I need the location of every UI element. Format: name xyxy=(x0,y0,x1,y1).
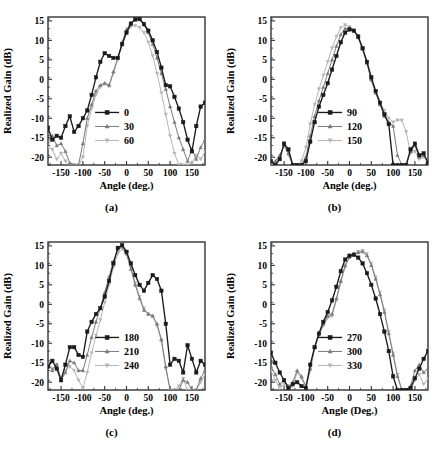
data-point-marker xyxy=(112,262,115,265)
data-point-marker xyxy=(322,93,325,96)
x-tick-label: 0 xyxy=(347,393,352,403)
x-tick-label: -100 xyxy=(297,393,315,403)
x-tick-label: -50 xyxy=(98,393,111,403)
data-point-marker xyxy=(72,130,75,133)
data-point-marker xyxy=(404,388,407,391)
x-tick-label: -100 xyxy=(297,168,315,178)
chart-panel-b: -20-15-10-5051015-150-100-50050100150Ang… xyxy=(223,0,446,225)
data-point-marker xyxy=(199,359,202,362)
legend-label-210: 210 xyxy=(124,346,139,357)
y-tick-label: -20 xyxy=(31,378,44,388)
data-point-marker xyxy=(151,39,154,42)
legend: 03060 xyxy=(95,107,134,146)
data-point-marker xyxy=(309,363,312,366)
data-point-marker xyxy=(278,371,281,374)
x-tick-label: 100 xyxy=(386,393,401,403)
x-tick-label: -150 xyxy=(52,393,70,403)
x-axis-title: Angle (deg.) xyxy=(99,180,154,192)
data-point-marker xyxy=(105,335,109,339)
x-tick-label: -100 xyxy=(74,393,92,403)
x-tick-label: 0 xyxy=(124,168,129,178)
x-axis-title: Angle (deg.) xyxy=(322,180,377,192)
data-point-marker xyxy=(291,163,294,166)
data-point-marker xyxy=(357,256,360,259)
data-point-marker xyxy=(134,18,137,21)
y-axis-title: Realized Gain (dB) xyxy=(225,48,237,134)
chart-panel-d: -20-15-10-5051015-150-100-50050100150Ang… xyxy=(223,225,446,450)
y-tick-label: 5 xyxy=(262,280,267,290)
legend-label-60: 60 xyxy=(124,135,134,146)
y-tick-label: 10 xyxy=(35,261,45,271)
panel-caption-c: (c) xyxy=(0,426,223,438)
figure-radiation-patterns: -20-15-10-5051015-150-100-50050100150Ang… xyxy=(0,0,446,450)
y-tick-label: 5 xyxy=(262,55,267,65)
data-point-marker xyxy=(86,330,89,333)
y-axis-title: Realized Gain (dB) xyxy=(225,273,237,359)
data-point-marker xyxy=(383,330,386,333)
data-point-marker xyxy=(59,379,62,382)
data-point-marker xyxy=(51,359,54,362)
legend-label-30: 30 xyxy=(124,121,134,132)
data-point-marker xyxy=(160,289,163,292)
y-tick-label: -20 xyxy=(31,153,44,163)
data-point-marker xyxy=(116,56,119,59)
data-point-marker xyxy=(422,152,425,155)
legend: 90120150 xyxy=(318,107,362,146)
data-point-marker xyxy=(343,258,346,261)
legend-label-330: 330 xyxy=(347,360,362,371)
data-point-marker xyxy=(391,163,394,166)
legend-label-240: 240 xyxy=(124,360,139,371)
data-point-marker xyxy=(173,357,176,360)
y-axis-title: Realized Gain (dB) xyxy=(2,273,14,359)
data-point-marker xyxy=(352,29,355,32)
data-point-marker xyxy=(160,66,163,69)
y-tick-label: 10 xyxy=(258,261,268,271)
y-tick-label: -20 xyxy=(254,378,267,388)
y-tick-label: -15 xyxy=(31,133,44,143)
data-point-marker xyxy=(348,254,351,257)
y-tick-label: -5 xyxy=(259,94,267,104)
data-point-marker xyxy=(90,93,93,96)
data-point-marker xyxy=(186,138,189,141)
data-point-marker xyxy=(348,28,351,31)
data-point-marker xyxy=(418,367,421,370)
chart-svg-c: -20-15-10-5051015-150-100-50050100150Ang… xyxy=(0,225,223,450)
data-point-marker xyxy=(203,101,206,104)
data-point-marker xyxy=(64,363,67,366)
y-tick-label: 5 xyxy=(39,280,44,290)
data-point-marker xyxy=(300,163,303,166)
y-tick-label: 15 xyxy=(35,16,45,26)
data-point-marker xyxy=(304,386,307,389)
data-point-marker xyxy=(94,312,97,315)
legend-label-90: 90 xyxy=(347,107,357,118)
data-point-marker xyxy=(304,159,307,162)
data-point-marker xyxy=(400,163,403,166)
data-point-marker xyxy=(68,345,71,348)
data-point-marker xyxy=(317,105,320,108)
data-point-marker xyxy=(155,50,158,53)
legend: 270300330 xyxy=(318,332,362,371)
x-tick-label: 0 xyxy=(347,168,352,178)
data-point-marker xyxy=(147,29,150,32)
data-point-marker xyxy=(125,31,128,34)
data-point-marker xyxy=(387,349,390,352)
y-tick-label: -10 xyxy=(254,114,267,124)
data-point-marker xyxy=(365,60,368,63)
data-point-marker xyxy=(77,124,80,127)
data-point-marker xyxy=(155,277,158,280)
y-tick-label: 5 xyxy=(39,55,44,65)
data-point-marker xyxy=(55,134,58,137)
data-point-marker xyxy=(86,109,89,112)
data-point-marker xyxy=(68,115,71,118)
data-point-marker xyxy=(330,299,333,302)
x-tick-label: -150 xyxy=(275,168,293,178)
data-point-marker xyxy=(396,388,399,391)
data-point-marker xyxy=(138,17,141,20)
x-tick-label: -50 xyxy=(321,168,334,178)
y-axis-title: Realized Gain (dB) xyxy=(2,48,14,134)
data-point-marker xyxy=(195,124,198,127)
x-tick-label: -150 xyxy=(52,168,70,178)
y-tick-label: 0 xyxy=(262,300,267,310)
data-point-marker xyxy=(151,273,154,276)
data-point-marker xyxy=(90,320,93,323)
